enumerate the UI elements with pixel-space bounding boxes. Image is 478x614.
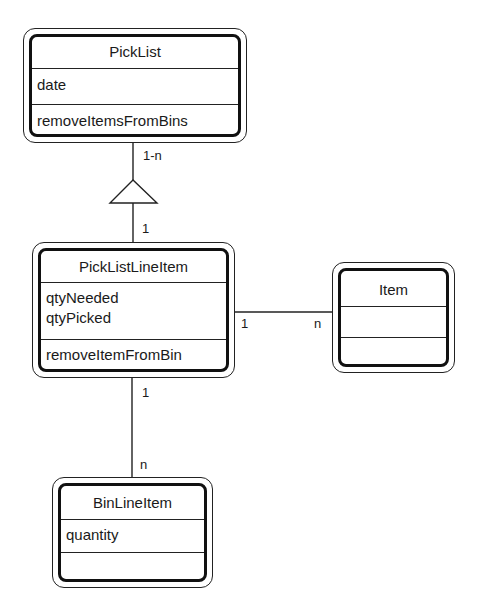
operations-section [341, 337, 446, 364]
multiplicity-label: n [140, 458, 147, 472]
class-picklistlineitem[interactable]: PickListLineItem qtyNeeded qtyPicked rem… [32, 242, 235, 378]
operations-section: removeItemFromBin [41, 339, 226, 369]
attributes-section [341, 306, 446, 337]
operations-section [61, 552, 204, 579]
multiplicity-label: 1 [142, 222, 149, 236]
class-item-frame: Item [338, 268, 449, 367]
class-name: PickListLineItem [41, 251, 226, 282]
aggregation-triangle-icon [110, 180, 157, 203]
operation: removeItemsFromBins [37, 111, 233, 131]
attribute: qtyNeeded [46, 288, 221, 308]
class-name: Item [341, 271, 446, 306]
attributes-section: qtyNeeded qtyPicked [41, 282, 226, 339]
class-picklist[interactable]: PickList date removeItemsFromBins [23, 28, 247, 143]
multiplicity-label: 1-n [143, 149, 162, 163]
class-binlineitem-frame: BinLineItem quantity [58, 483, 207, 582]
class-item[interactable]: Item [332, 262, 455, 373]
class-name: BinLineItem [61, 486, 204, 519]
class-picklist-frame: PickList date removeItemsFromBins [29, 34, 241, 137]
multiplicity-label: 1 [142, 386, 149, 400]
operation: removeItemFromBin [46, 345, 221, 365]
attribute: date [37, 75, 233, 95]
multiplicity-label: 1 [241, 317, 248, 331]
operations-section: removeItemsFromBins [32, 104, 238, 134]
attribute: quantity [66, 525, 199, 545]
class-name: PickList [32, 37, 238, 68]
attributes-section: date [32, 68, 238, 104]
uml-diagram-canvas: PickList date removeItemsFromBins PickLi… [0, 0, 478, 614]
attributes-section: quantity [61, 519, 204, 552]
class-picklistlineitem-frame: PickListLineItem qtyNeeded qtyPicked rem… [38, 248, 229, 372]
multiplicity-label: n [314, 317, 321, 331]
class-binlineitem[interactable]: BinLineItem quantity [52, 477, 213, 588]
attribute: qtyPicked [46, 308, 221, 328]
